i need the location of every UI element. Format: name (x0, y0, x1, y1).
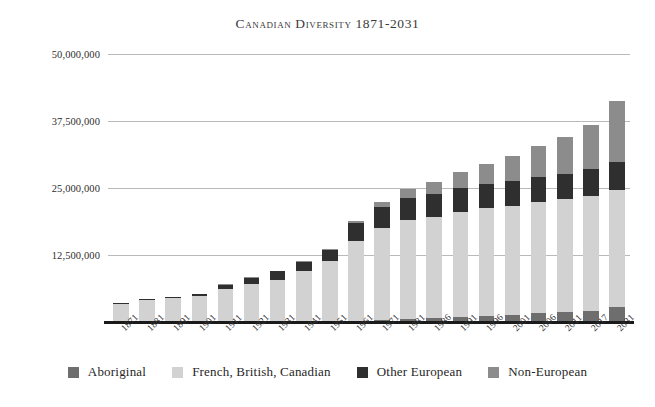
bar-segment[interactable] (374, 207, 390, 228)
legend-item[interactable]: Non-European (488, 364, 587, 380)
y-axis-tick-label: 50,000,000 (52, 49, 100, 60)
bar-segment[interactable] (557, 199, 573, 312)
bar-segment[interactable] (557, 174, 573, 200)
bar-segment[interactable] (505, 156, 521, 181)
bar-segment[interactable] (270, 271, 286, 279)
bar-stack[interactable] (374, 202, 390, 322)
legend-swatch-icon (172, 367, 183, 378)
bar-segment[interactable] (374, 228, 390, 321)
bar-segment[interactable] (453, 172, 469, 188)
bar-segment[interactable] (296, 271, 312, 321)
bar-segment[interactable] (244, 284, 260, 322)
bar-stack[interactable] (557, 137, 573, 322)
bar-segment[interactable] (609, 190, 625, 307)
bar-stack[interactable] (505, 156, 521, 322)
bar-segment[interactable] (322, 250, 338, 261)
bar-segment[interactable] (348, 223, 364, 241)
bar-stack[interactable] (583, 125, 599, 322)
legend-swatch-icon (68, 367, 79, 378)
legend-label: French, British, Canadian (192, 364, 331, 380)
bar-segment[interactable] (322, 261, 338, 322)
legend-swatch-icon (357, 367, 368, 378)
bar-segment[interactable] (426, 217, 442, 318)
bar-stack[interactable] (426, 182, 442, 322)
bar-segment[interactable] (583, 169, 599, 196)
bar-segment[interactable] (453, 212, 469, 317)
legend-item[interactable]: Aboriginal (68, 364, 146, 380)
bar-segment[interactable] (609, 101, 625, 162)
bar-segment[interactable] (583, 125, 599, 169)
bar-segment[interactable] (426, 194, 442, 217)
bar-segment[interactable] (479, 164, 495, 184)
bars-layer (108, 54, 630, 322)
bar-stack[interactable] (270, 271, 286, 322)
bar-segment[interactable] (583, 196, 599, 311)
legend-item[interactable]: Other European (357, 364, 462, 380)
bar-stack[interactable] (348, 221, 364, 322)
bar-segment[interactable] (400, 220, 416, 319)
legend-label: Non-European (508, 364, 587, 380)
bar-segment[interactable] (296, 262, 312, 271)
bar-segment[interactable] (531, 177, 547, 202)
bar-segment[interactable] (400, 189, 416, 198)
y-axis-tick-label: 12,500,000 (52, 250, 100, 261)
bar-stack[interactable] (453, 172, 469, 322)
legend-swatch-icon (488, 367, 499, 378)
legend-item[interactable]: French, British, Canadian (172, 364, 331, 380)
bar-segment[interactable] (400, 198, 416, 221)
y-axis-tick-label: 37,500,000 (52, 116, 100, 127)
bar-segment[interactable] (479, 184, 495, 208)
chart-container: Canadian Diversity 1871-2031 12,500,0002… (0, 0, 655, 407)
bar-stack[interactable] (479, 164, 495, 322)
bar-segment[interactable] (348, 241, 364, 321)
bar-stack[interactable] (296, 261, 312, 322)
bar-segment[interactable] (453, 188, 469, 212)
bar-stack[interactable] (609, 101, 625, 322)
bar-segment[interactable] (426, 182, 442, 194)
bar-stack[interactable] (244, 277, 260, 322)
y-axis: 12,500,00025,000,00037,500,00050,000,000 (0, 0, 100, 407)
bar-segment[interactable] (531, 202, 547, 313)
legend-label: Aboriginal (88, 364, 146, 380)
y-axis-tick-label: 25,000,000 (52, 183, 100, 194)
bar-stack[interactable] (531, 146, 547, 322)
legend-label: Other European (377, 364, 462, 380)
x-axis: 1871188118911901191119211931194119511961… (108, 326, 630, 366)
bar-segment[interactable] (505, 206, 521, 315)
bar-segment[interactable] (609, 162, 625, 190)
chart-legend: AboriginalFrench, British, CanadianOther… (0, 364, 655, 380)
bar-segment[interactable] (531, 146, 547, 177)
bar-segment[interactable] (557, 137, 573, 173)
bar-stack[interactable] (400, 189, 416, 322)
bar-segment[interactable] (479, 208, 495, 316)
bar-segment[interactable] (505, 181, 521, 206)
bar-stack[interactable] (322, 249, 338, 322)
bar-segment[interactable] (270, 280, 286, 322)
